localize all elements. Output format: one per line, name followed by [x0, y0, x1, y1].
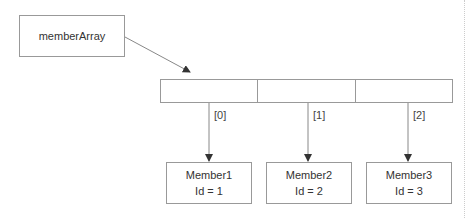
array-cell-2 [356, 80, 452, 102]
page-edge-divider [464, 0, 465, 218]
member-array-variable-box: memberArray [19, 15, 125, 57]
member-id: Id = 2 [295, 183, 323, 199]
member-name: Member3 [386, 167, 432, 183]
index-label-2: [2] [413, 109, 425, 121]
index-label-0: [0] [214, 109, 226, 121]
member-id: Id = 3 [395, 183, 423, 199]
member-name: Member1 [186, 167, 232, 183]
member-box-3: Member3 Id = 3 [366, 162, 452, 204]
member-box-2: Member2 Id = 2 [266, 162, 352, 204]
member-id: Id = 1 [195, 183, 223, 199]
array-block [160, 79, 453, 103]
array-cell-1 [258, 80, 355, 102]
array-cell-0 [161, 80, 258, 102]
member-array-label: memberArray [39, 30, 106, 42]
index-label-1: [1] [313, 109, 325, 121]
pointer-arrow [125, 37, 190, 72]
member-name: Member2 [286, 167, 332, 183]
member-box-1: Member1 Id = 1 [166, 162, 252, 204]
